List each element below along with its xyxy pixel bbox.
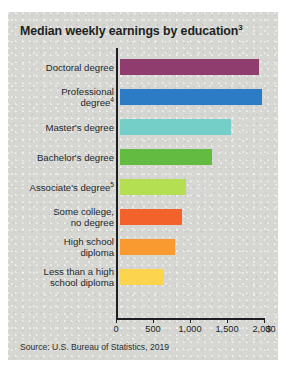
bar-category-label: Some college, no degree [20, 206, 120, 228]
bar-category-label: Master's degree [20, 122, 120, 133]
bar-track [120, 82, 268, 112]
bar-row: Some college, no degree [20, 202, 268, 232]
bar-track [120, 202, 268, 232]
x-axis-tick [153, 318, 154, 323]
x-axis-tick-label: 0 [113, 324, 118, 334]
x-axis-tick [264, 318, 265, 323]
bar-label-superscript: 4 [110, 96, 114, 103]
bar-row: Professional degree4 [20, 82, 268, 112]
x-axis-tick [227, 318, 228, 323]
bar-row: Master's degree [20, 112, 268, 142]
bar [120, 269, 164, 285]
x-axis-tick-label: 500 [145, 324, 160, 334]
bar-row: Less than a high school diploma [20, 262, 268, 292]
bar-track [120, 112, 268, 142]
bar [120, 149, 212, 165]
bar [120, 119, 231, 135]
bar-label-superscript: 5 [110, 180, 114, 187]
page-title: Median weekly earnings by education3 [20, 24, 268, 38]
figure-root: Median weekly earnings by education3 Doc… [0, 0, 293, 372]
chart-title-text: Median weekly earnings by education [20, 24, 238, 38]
bar-row: Doctoral degree [20, 52, 268, 82]
bar-row: Bachelor's degree [20, 142, 268, 172]
bar-row: Associate's degree5 [20, 172, 268, 202]
bar-category-label: Less than a high school diploma [20, 266, 120, 288]
source-note: Source: U.S. Bureau of Statistics, 2019 [20, 342, 169, 352]
bar-track [120, 142, 268, 172]
x-axis-tick-label: 2,000 [253, 324, 276, 334]
chart-card: Median weekly earnings by education3 Doc… [8, 12, 278, 360]
x-axis-tick [116, 318, 117, 323]
chart-title-superscript: 3 [238, 23, 242, 32]
x-axis-unit-label: $ [266, 324, 271, 334]
bar-category-label: Professional degree4 [20, 86, 120, 108]
bar-track [120, 52, 268, 82]
y-axis-line [116, 48, 118, 320]
bar-track [120, 262, 268, 292]
bar-row: High school diploma [20, 232, 268, 262]
x-axis-tick-label: 1,500 [216, 324, 239, 334]
bar [120, 239, 175, 255]
bar [120, 59, 259, 75]
bar-track [120, 232, 268, 262]
x-axis-tick [190, 318, 191, 323]
bar [120, 209, 182, 225]
bar [120, 179, 186, 195]
x-axis-tick-label: 1,000 [179, 324, 202, 334]
bar-track [120, 172, 268, 202]
bar-category-label: Associate's degree5 [20, 182, 120, 193]
bar [120, 89, 262, 105]
bar-category-label: Bachelor's degree [20, 152, 120, 163]
bar-category-label: High school diploma [20, 236, 120, 258]
bar-category-label: Doctoral degree [20, 62, 120, 73]
plot-area: Doctoral degreeProfessional degree4Maste… [20, 48, 268, 320]
